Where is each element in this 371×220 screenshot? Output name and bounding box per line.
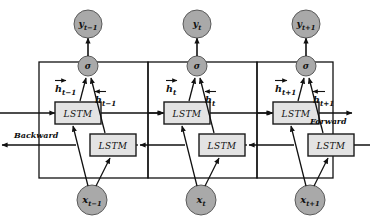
cell-block-t-minus-1: LSTM LSTM xt−1 σ y [0, 10, 163, 215]
backward-lstm-label: LSTM [98, 141, 128, 151]
backward-lstm-label: LSTM [207, 141, 237, 151]
bilstm-diagram: LSTM LSTM xt−1 σ y [0, 0, 371, 220]
sigma-node-label: σ [194, 61, 201, 71]
forward-state-to-sigma [298, 78, 304, 101]
input-to-forward-lstm [182, 126, 197, 186]
backward-lstm-label: LSTM [316, 141, 346, 151]
input-to-forward-lstm [73, 126, 88, 186]
backward-direction-label: Backward [13, 130, 59, 140]
forward-state-to-sigma [80, 78, 86, 101]
input-to-backward-lstm [96, 158, 110, 186]
forward-lstm-label: LSTM [281, 109, 311, 119]
forward-lstm-label: LSTM [172, 109, 202, 119]
forward-hidden-text: ht+1 [275, 83, 296, 97]
sigma-node-label: σ [303, 61, 310, 71]
diagram-canvas: LSTM LSTM xt−1 σ y [0, 0, 371, 220]
forward-hidden-text: ht [166, 83, 177, 97]
cell-block-t-plus-1: LSTM LSTM xt+1 σ yt+1 ht+1 [249, 10, 370, 215]
forward-hidden-state-label: ht+1 [275, 81, 296, 97]
forward-hidden-state-label: ht−1 [55, 81, 76, 97]
input-to-backward-lstm [314, 158, 328, 186]
forward-lstm-label: LSTM [63, 109, 93, 119]
input-to-forward-lstm [291, 126, 306, 186]
forward-hidden-text: ht−1 [55, 83, 76, 97]
sigma-node-label: σ [85, 61, 92, 71]
input-to-backward-lstm [205, 158, 219, 186]
forward-hidden-state-label: ht [166, 81, 177, 97]
forward-direction-label: Forward [309, 116, 347, 126]
forward-state-to-sigma [189, 78, 195, 101]
cell-block-t: LSTM LSTM xt σ yt ht [140, 10, 272, 215]
